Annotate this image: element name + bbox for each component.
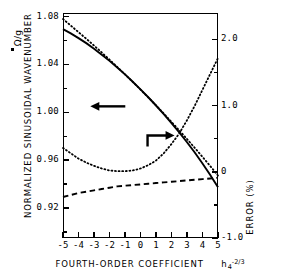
secondary-y-tick-minor xyxy=(214,72,218,73)
x-axis-title-text: FOURTH-ORDER COEFFICIENT xyxy=(55,259,203,269)
x-tick-label: 1 xyxy=(148,240,164,250)
y-tick-minor xyxy=(63,183,67,184)
x-tick-label: -2 xyxy=(102,240,118,250)
x-tick-major xyxy=(93,232,95,238)
y-tick-label: 1.04 xyxy=(29,58,59,68)
y-tick-label: 1.00 xyxy=(29,106,59,116)
secondary-y-tick-major xyxy=(212,39,218,41)
y-tick-major xyxy=(63,112,69,114)
x-tick-major xyxy=(78,232,80,238)
x-tick-label: 4 xyxy=(195,240,211,250)
x-tick-label: 2 xyxy=(164,240,180,250)
x-tick-major xyxy=(140,232,142,238)
x-tick-major xyxy=(171,232,173,238)
x-tick-label: 5 xyxy=(210,240,226,250)
y-tick-major xyxy=(63,64,69,66)
x-tick-major xyxy=(217,232,219,238)
x-axis-title: FOURTH-ORDER COEFFICIENT h4-2/3 xyxy=(40,258,260,271)
x-tick-label: 3 xyxy=(179,240,195,250)
plot-frame xyxy=(63,13,218,238)
y-tick-label: 0.92 xyxy=(29,202,59,212)
y-tick-major xyxy=(63,207,69,209)
y-tick-label: 1.08 xyxy=(29,11,59,21)
x-tick-label: -4 xyxy=(71,240,87,250)
x-tick-major xyxy=(155,232,157,238)
x-tick-label: -1 xyxy=(117,240,133,250)
secondary-y-tick-label: 1.0 xyxy=(221,100,251,110)
secondary-y-tick-label: 2.0 xyxy=(221,33,251,43)
y-tick-label: 0.96 xyxy=(29,154,59,164)
x-tick-major xyxy=(124,232,126,238)
secondary-y-tick-label: 0 xyxy=(221,166,251,176)
secondary-y-tick-major xyxy=(212,171,218,173)
figure: NORMALIZED SINUSOIDAL WAVENUMBER Ω/g ERR… xyxy=(0,0,286,280)
secondary-y-tick-minor xyxy=(214,138,218,139)
x-tick-major xyxy=(109,232,111,238)
x-tick-major xyxy=(202,232,204,238)
x-tick-major xyxy=(62,232,64,238)
y-tick-minor xyxy=(63,136,67,137)
secondary-y-tick-minor xyxy=(214,204,218,205)
x-tick-label: 0 xyxy=(133,240,149,250)
y-tick-major xyxy=(63,159,69,161)
y-tick-minor xyxy=(63,40,67,41)
x-axis-symbol-superscript: -2/3 xyxy=(232,258,245,266)
y-tick-minor xyxy=(63,88,67,89)
y-axis-unit-label: Ω/g xyxy=(13,23,23,53)
x-tick-label: -3 xyxy=(86,240,102,250)
x-tick-major xyxy=(186,232,188,238)
y-tick-major xyxy=(63,16,69,18)
x-tick-label: -5 xyxy=(55,240,71,250)
secondary-y-tick-major xyxy=(212,105,218,107)
